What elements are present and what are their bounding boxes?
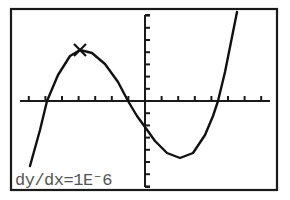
graph-screen — [0, 0, 290, 200]
function-curve — [30, 12, 237, 166]
derivative-readout: dy/dx=1E⁻6 — [15, 172, 112, 189]
